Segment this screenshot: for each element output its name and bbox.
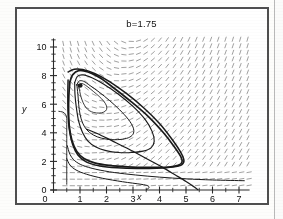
y-tick-label: 6 (41, 100, 46, 110)
x-tick-label: 4 (157, 194, 162, 204)
x-tick-label: 5 (183, 194, 188, 204)
y-tick-label: 8 (41, 71, 46, 81)
page-edge-seam (274, 0, 283, 219)
y-tick-label: 10 (36, 42, 46, 52)
x-tick-label: 6 (210, 194, 215, 204)
fixed-points (77, 83, 82, 87)
x-tick-label: 0 (42, 194, 47, 204)
x-tick-label: 7 (236, 194, 241, 204)
trajectory-outward-spiral-inner-1 (77, 81, 134, 140)
y-tick-label: 4 (41, 128, 46, 138)
x-tick-label: 3 (130, 194, 135, 204)
fixed-point-unstable-spiral (77, 83, 82, 87)
x-tick-label: 1 (77, 194, 82, 204)
y-tick-label: 2 (41, 157, 46, 167)
scanned-page: b=1.75 y x 024681001234567 (0, 0, 283, 219)
x-tick-label: 2 (104, 194, 109, 204)
phase-portrait-plot: 024681001234567 (0, 0, 283, 219)
